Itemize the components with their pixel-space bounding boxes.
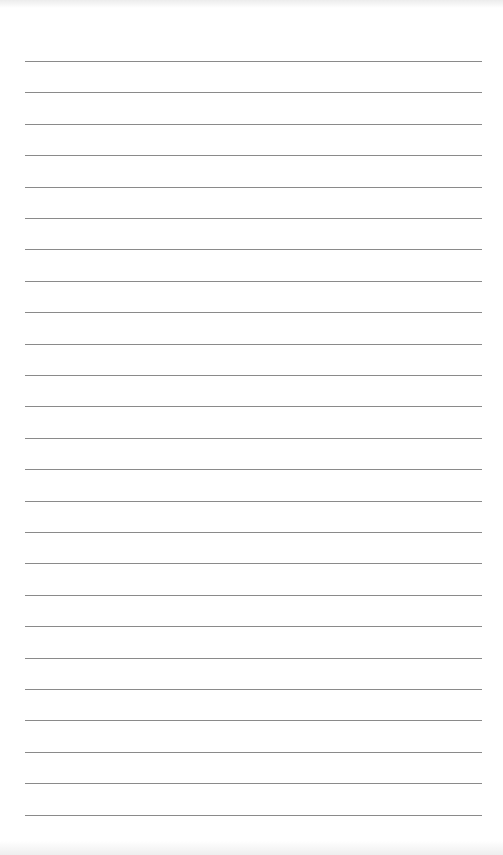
ruled-line <box>25 249 482 250</box>
ruled-line <box>25 124 482 125</box>
ruled-line <box>25 187 482 188</box>
ruled-line <box>25 155 482 156</box>
ruled-line <box>25 375 482 376</box>
ruled-line <box>25 312 482 313</box>
page-top-edge <box>0 0 503 8</box>
ruled-line <box>25 406 482 407</box>
ruled-line <box>25 626 482 627</box>
ruled-line <box>25 532 482 533</box>
ruled-line <box>25 438 482 439</box>
ruled-line <box>25 563 482 564</box>
ruled-line <box>25 469 482 470</box>
ruled-line <box>25 281 482 282</box>
ruled-line <box>25 501 482 502</box>
ruled-line <box>25 752 482 753</box>
ruled-line <box>25 689 482 690</box>
ruled-line <box>25 218 482 219</box>
ruled-line <box>25 658 482 659</box>
page-bottom-edge <box>0 841 503 855</box>
ruled-line <box>25 595 482 596</box>
ruled-line <box>25 92 482 93</box>
ruled-line <box>25 720 482 721</box>
ruled-line <box>25 783 482 784</box>
ruled-line <box>25 815 482 816</box>
ruled-line <box>25 344 482 345</box>
ruled-line <box>25 61 482 62</box>
